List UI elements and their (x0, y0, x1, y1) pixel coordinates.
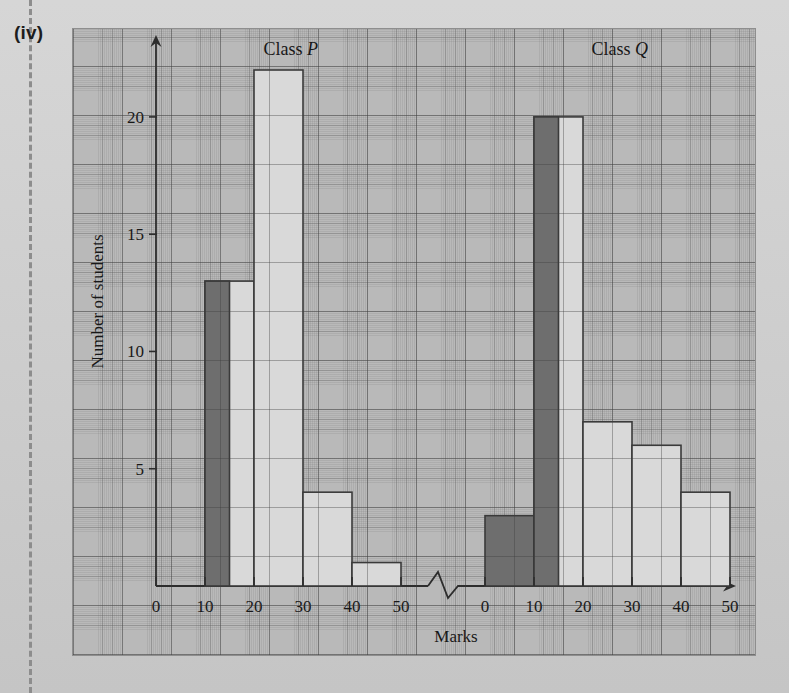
x-tick-label: 30 (624, 597, 641, 616)
bar-class-p-30-40[interactable] (303, 492, 352, 586)
x-tick-label: 20 (575, 597, 592, 616)
x-tick-label: 10 (197, 597, 214, 616)
histogram-plot: 5101520Number of studentsClass P01020304… (73, 29, 756, 656)
page-binding-dashed-line (29, 0, 32, 693)
highlight-class-p-10-15[interactable] (205, 281, 230, 586)
graph-paper: 5101520Number of studentsClass P01020304… (72, 28, 756, 656)
page-background: (iv) 5101520Number of studentsClass P010… (0, 0, 789, 693)
y-axis-title: Number of students (88, 234, 107, 368)
x-tick-label: 0 (152, 597, 161, 616)
y-tick-label: 15 (127, 225, 144, 244)
x-axis-title: Marks (434, 627, 477, 646)
highlight-class-q-10-15[interactable] (534, 117, 559, 586)
x-tick-label: 10 (526, 597, 543, 616)
x-tick-label: 30 (295, 597, 312, 616)
bar-class-q-0-10[interactable] (485, 516, 534, 586)
part-label: (iv) (14, 22, 43, 44)
x-tick-label: 20 (246, 597, 263, 616)
x-axis-break-symbol (428, 572, 483, 598)
y-tick-label: 10 (127, 342, 144, 361)
x-tick-label: 50 (393, 597, 410, 616)
x-tick-label: 50 (722, 597, 739, 616)
y-tick-label: 20 (127, 108, 144, 127)
x-tick-label: 40 (344, 597, 361, 616)
bar-class-p-40-50[interactable] (352, 563, 401, 586)
x-tick-label: 40 (673, 597, 690, 616)
bar-class-q-30-40[interactable] (632, 445, 681, 586)
bar-class-p-20-30[interactable] (254, 70, 303, 586)
panel-title-1: Class P (263, 39, 318, 59)
y-tick-label: 5 (136, 460, 145, 479)
bar-class-q-40-50[interactable] (681, 492, 730, 586)
bar-class-q-20-30[interactable] (583, 422, 632, 586)
panel-title-2: Class Q (591, 39, 648, 59)
x-tick-label: 0 (481, 597, 490, 616)
